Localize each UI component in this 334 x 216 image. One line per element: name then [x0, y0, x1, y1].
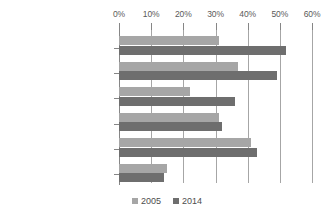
bar-pauschal-bausteinreise-2005 — [119, 87, 190, 96]
bar-chart: 0% 10% 20% 30% 40% 50% 60% Unterkunft Fl… — [0, 0, 334, 216]
plot-area — [119, 30, 312, 183]
x-axis-tick-label: 30% — [199, 9, 233, 19]
legend-item-2005: 2005 — [132, 196, 161, 206]
x-axis-tick-mark — [183, 23, 184, 30]
x-axis-tick-label: 20% — [166, 9, 200, 19]
bar-unterkunft-2005 — [119, 36, 219, 45]
legend-swatch-icon-2005 — [132, 198, 138, 204]
bar-unterkunft-2014 — [119, 46, 286, 55]
x-axis-tick-mark — [280, 23, 281, 30]
bar-pauschal-bausteinreise-2014 — [119, 97, 235, 106]
x-axis-tick-label: 0% — [102, 9, 136, 19]
bar-mietwagen-2005 — [119, 138, 251, 147]
x-axis-tick-label: 50% — [263, 9, 297, 19]
legend-label-2005: 2005 — [141, 196, 161, 206]
legend-swatch-icon-2014 — [173, 198, 179, 204]
chart-legend: 2005 2014 — [0, 196, 334, 206]
bar-mietwagen-2014 — [119, 148, 257, 157]
x-axis-tick-label: 40% — [231, 9, 265, 19]
bar-eintrittskarte-2005 — [119, 164, 167, 173]
x-axis-tick-mark — [216, 23, 217, 30]
x-axis-tick-label: 10% — [134, 9, 168, 19]
x-axis-tick-mark — [248, 23, 249, 30]
x-axis-tick-mark — [312, 23, 313, 30]
bar-bahnfahrkarte-2014 — [119, 122, 222, 131]
bar-eintrittskarte-2014 — [119, 173, 164, 182]
bar-bahnfahrkarte-2005 — [119, 113, 219, 122]
gridline-60 — [312, 30, 313, 183]
legend-label-2014: 2014 — [182, 196, 202, 206]
bar-flugticket-2014 — [119, 71, 277, 80]
bar-flugticket-2005 — [119, 62, 238, 71]
x-axis-tick-label: 60% — [295, 9, 329, 19]
x-axis-tick-mark — [151, 23, 152, 30]
legend-item-2014: 2014 — [173, 196, 202, 206]
